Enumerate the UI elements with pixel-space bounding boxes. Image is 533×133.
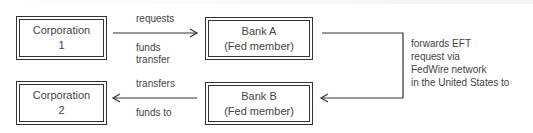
edge-label-united-states: in the United States to xyxy=(411,76,509,89)
corporation-1-node: Corporation 1 xyxy=(16,16,107,60)
bank-a-node: Bank A (Fed member) xyxy=(205,17,313,60)
edge-label-fedwire-network: FedWire network xyxy=(411,63,487,76)
edge-label-forwards-eft: forwards EFT xyxy=(411,37,471,50)
edge-label-requests: requests xyxy=(136,12,174,25)
bank-b-node: Bank B (Fed member) xyxy=(205,82,313,125)
corporation-2-name: Corporation xyxy=(33,88,90,103)
bank-a-name: Bank A xyxy=(242,24,277,39)
corporation-1-name: Corporation xyxy=(33,23,90,38)
bank-b-name: Bank B xyxy=(241,89,276,104)
edge-label-transfer: transfer xyxy=(136,53,170,66)
bank-a-membership: (Fed member) xyxy=(224,39,294,54)
corporation-2-node: Corporation 2 xyxy=(16,81,107,125)
corporation-2-number: 2 xyxy=(58,103,64,118)
edge-label-transfers: transfers xyxy=(136,77,175,90)
edge-label-request-via: request via xyxy=(411,50,460,63)
corporation-1-number: 1 xyxy=(58,38,64,53)
bank-b-membership: (Fed member) xyxy=(224,104,294,119)
edge-label-funds-to: funds to xyxy=(136,106,172,119)
